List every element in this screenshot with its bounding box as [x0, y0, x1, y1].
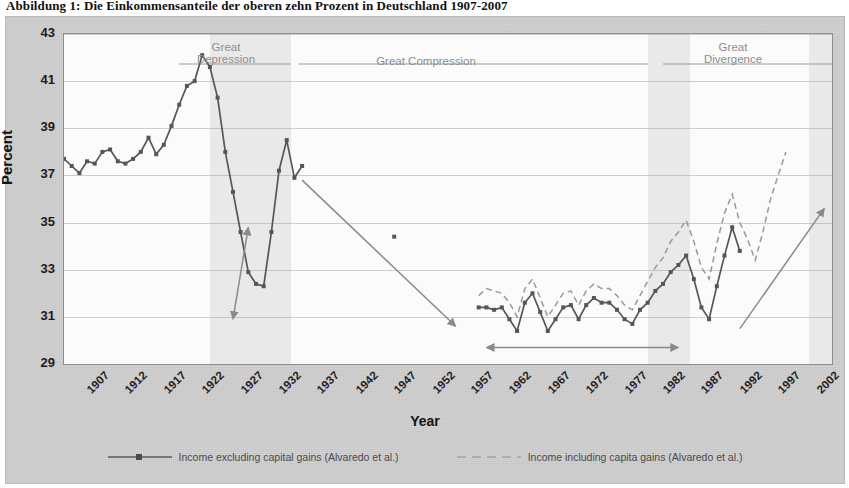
- legend-label-excluding: Income excluding capital gains (Alvaredo…: [179, 451, 399, 463]
- data-point-marker: [500, 305, 504, 309]
- series-including: [479, 152, 786, 317]
- x-tick-label: 1972: [584, 369, 611, 396]
- data-point-marker: [661, 282, 665, 286]
- data-point-marker: [554, 317, 558, 321]
- data-point-marker: [231, 190, 235, 194]
- figure-root: Abbildung 1: Die Einkommensanteile der o…: [0, 0, 849, 488]
- data-point-marker: [77, 171, 81, 175]
- data-point-marker: [592, 296, 596, 300]
- data-point-marker: [254, 282, 258, 286]
- x-tick-label: 1962: [507, 369, 534, 396]
- data-point-marker: [507, 317, 511, 321]
- y-tick-label: 35: [29, 214, 55, 229]
- y-axis-title: Percent: [0, 130, 15, 185]
- data-point-marker: [561, 305, 565, 309]
- x-axis-title: Year: [6, 413, 844, 429]
- figure-caption: Abbildung 1: Die Einkommensanteile der o…: [6, 0, 508, 14]
- data-point-marker: [300, 164, 304, 168]
- data-point-marker: [216, 96, 220, 100]
- data-point-marker: [723, 254, 727, 258]
- x-tick-label: 1977: [622, 369, 649, 396]
- x-tick-label: 1952: [430, 369, 457, 396]
- data-point-marker: [730, 225, 734, 229]
- data-point-marker: [615, 308, 619, 312]
- x-tick-label: 1927: [238, 369, 265, 396]
- data-point-marker: [538, 310, 542, 314]
- annotation-arrow-depression-drop: [233, 227, 248, 319]
- x-tick-label: 2002: [814, 369, 841, 396]
- annotation-arrow-divergence-rise: [740, 208, 824, 328]
- data-point-marker: [131, 157, 135, 161]
- data-point-marker: [531, 291, 535, 295]
- data-point-marker: [154, 152, 158, 156]
- x-tick-label: 1997: [776, 369, 803, 396]
- data-point-marker: [85, 159, 89, 163]
- annotation-great-divergence: Great Divergence: [690, 41, 776, 65]
- data-point-marker: [646, 301, 650, 305]
- annotation-arrow-compression-decline: [302, 180, 456, 326]
- data-point-marker: [600, 301, 604, 305]
- plot-inner: [64, 34, 832, 364]
- annotation-great-compression: Great Compression: [336, 55, 516, 67]
- data-point-marker: [292, 176, 296, 180]
- x-tick-label: 1987: [699, 369, 726, 396]
- data-point-marker: [569, 303, 573, 307]
- data-point-marker: [269, 230, 273, 234]
- x-tick-label: 1922: [200, 369, 227, 396]
- data-point-marker: [170, 124, 174, 128]
- data-point-marker: [147, 136, 151, 140]
- data-point-marker: [93, 162, 97, 166]
- series-path: [479, 227, 740, 331]
- data-point-marker: [108, 148, 112, 152]
- data-point-marker: [684, 254, 688, 258]
- data-point-marker: [177, 103, 181, 107]
- x-tick-label: 1912: [123, 369, 150, 396]
- data-point-marker: [653, 289, 657, 293]
- y-tick-label: 29: [29, 355, 55, 370]
- legend-label-including: Income including capita gains (Alvaredo …: [528, 451, 743, 463]
- data-point-marker: [262, 284, 266, 288]
- y-tick-label: 37: [29, 166, 55, 181]
- data-point-marker: [185, 84, 189, 88]
- data-point-marker: [515, 329, 519, 333]
- data-point-marker: [623, 317, 627, 321]
- data-point-marker: [246, 270, 250, 274]
- x-tick-label: 1967: [545, 369, 572, 396]
- data-point-marker: [223, 150, 227, 154]
- y-tick-label: 41: [29, 72, 55, 87]
- plot-area: [63, 33, 833, 365]
- data-point-marker: [477, 305, 481, 309]
- data-point-marker: [699, 305, 703, 309]
- data-point-marker: [123, 162, 127, 166]
- series-excluding: [64, 53, 742, 333]
- data-point-marker: [277, 169, 281, 173]
- legend-item-including: Income including capita gains (Alvaredo …: [457, 451, 743, 463]
- x-tick-label: 1942: [353, 369, 380, 396]
- x-tick-label: 1982: [660, 369, 687, 396]
- x-tick-label: 1917: [161, 369, 188, 396]
- annotation-great-depression: Great Depression: [186, 41, 266, 65]
- legend-swatch-dashed: [457, 452, 521, 462]
- data-point-marker: [285, 138, 289, 142]
- legend-swatch-solid: [108, 452, 172, 462]
- y-tick-label: 33: [29, 261, 55, 276]
- data-point-marker: [193, 79, 197, 83]
- data-point-marker: [676, 263, 680, 267]
- data-point-marker: [546, 329, 550, 333]
- data-point-marker: [208, 65, 212, 69]
- x-tick-label: 1937: [315, 369, 342, 396]
- data-point-marker: [638, 308, 642, 312]
- data-point-marker: [392, 235, 396, 239]
- data-point-marker: [492, 308, 496, 312]
- data-point-marker: [523, 301, 527, 305]
- x-tick-label: 1907: [84, 369, 111, 396]
- series-path: [479, 152, 786, 317]
- legend-item-excluding: Income excluding capital gains (Alvaredo…: [108, 451, 399, 463]
- chart-legend: Income excluding capital gains (Alvaredo…: [6, 451, 844, 463]
- data-point-marker: [669, 270, 673, 274]
- y-tick-label: 31: [29, 308, 55, 323]
- data-point-marker: [70, 164, 74, 168]
- data-point-marker: [162, 143, 166, 147]
- data-point-marker: [738, 249, 742, 253]
- series-path: [64, 55, 302, 286]
